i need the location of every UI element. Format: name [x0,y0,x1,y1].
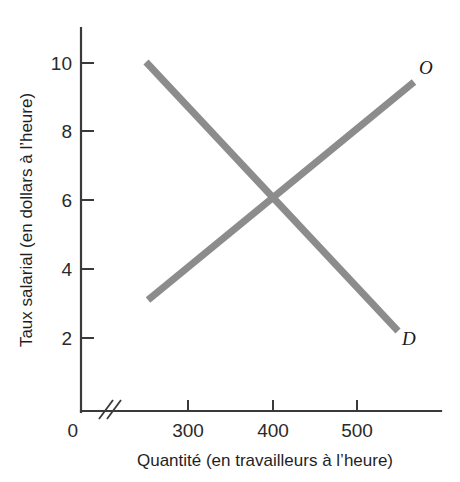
axis-break-mark-1 [99,400,113,419]
demand-curve-label: D [401,328,416,349]
y-tick-label-6: 6 [61,190,72,211]
y-tick-label-4: 4 [61,259,72,280]
supply-curve [148,82,414,300]
labour-market-supply-demand-chart: 10 8 6 4 2 0 300 400 500 D O Quantité (e… [0,0,460,482]
x-tick-label-400: 400 [257,420,289,441]
y-tick-label-10: 10 [51,53,72,74]
supply-curve-label: O [419,57,433,78]
x-tick-label-300: 300 [172,420,204,441]
x-tick-label-500: 500 [341,420,373,441]
y-tick-label-8: 8 [61,121,72,142]
y-axis-title: Taux salarial (en dollars à l’heure) [17,93,36,347]
y-tick-label-2: 2 [61,328,72,349]
chart-container: 10 8 6 4 2 0 300 400 500 D O Quantité (e… [0,0,460,482]
x-axis-title: Quantité (en travailleurs à l’heure) [137,451,393,470]
axis-break-mark-2 [107,400,121,419]
origin-label: 0 [67,420,78,441]
